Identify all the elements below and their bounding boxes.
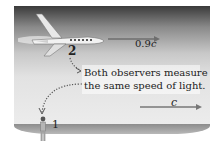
light-speed-label: c <box>171 96 177 109</box>
caption: Both observers measure the same speed of… <box>84 66 208 92</box>
person-observer-icon <box>38 116 48 142</box>
caption-line-2: the same speed of light. <box>84 79 208 92</box>
caption-line-1: Both observers measure <box>84 66 208 79</box>
observer-1-label: 1 <box>52 118 59 131</box>
